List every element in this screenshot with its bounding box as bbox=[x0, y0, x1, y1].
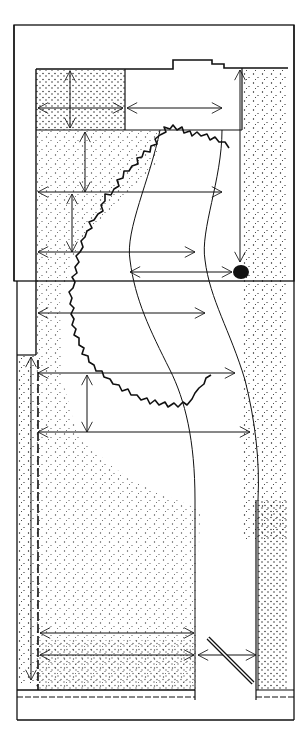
garden-site-plan bbox=[0, 0, 306, 751]
stipple-left-strip bbox=[17, 355, 37, 685]
house-footprint bbox=[36, 60, 288, 69]
stipple-top-right bbox=[242, 70, 287, 540]
dark-focal-blob bbox=[233, 265, 249, 279]
stipple-top-left bbox=[36, 70, 125, 130]
diagonal-gate bbox=[208, 638, 253, 683]
stipple-bed bbox=[36, 130, 200, 690]
